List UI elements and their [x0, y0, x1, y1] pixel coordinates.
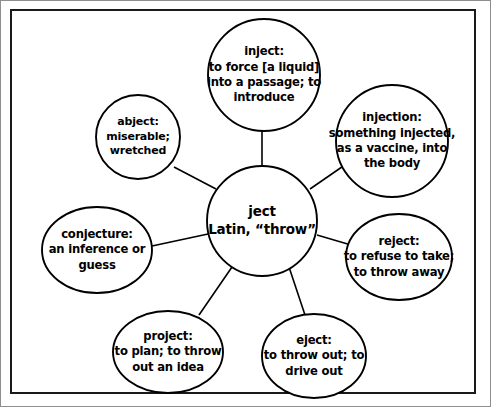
node-shape-reject[interactable] [346, 214, 452, 300]
node-shape-project[interactable] [113, 311, 223, 393]
word-web-canvas [0, 0, 491, 407]
node-shape-abject[interactable] [96, 95, 180, 179]
connector-center-to-project [199, 267, 232, 315]
connector-center-to-conjecture [152, 234, 208, 246]
connector-center-to-abject [174, 167, 216, 189]
connector-center-to-eject [289, 267, 305, 315]
node-shape-conjecture[interactable] [42, 207, 152, 293]
diagram-page: ject Latin, “throw” inject: to force [a … [0, 0, 491, 407]
node-shape-ject-center[interactable] [207, 166, 317, 276]
node-shape-eject[interactable] [262, 314, 366, 398]
connector-center-to-reject [317, 235, 351, 245]
node-shape-inject[interactable] [208, 19, 320, 131]
node-shape-injection[interactable] [336, 85, 448, 197]
